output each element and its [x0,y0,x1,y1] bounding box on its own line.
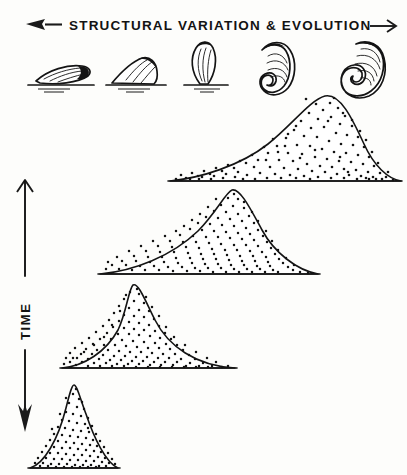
evolution-diagram: STRUCTURAL VARIATION & EVOLUTION [0,0,407,475]
title-row: STRUCTURAL VARIATION & EVOLUTION [26,18,396,33]
diagram-title: STRUCTURAL VARIATION & EVOLUTION [69,18,371,33]
distribution-curve-1-earliest [28,385,120,468]
distribution-curve-4-latest [168,96,402,182]
left-solid-arrow-icon [26,19,62,30]
specimen-1-recumbent-elongate-shell [28,66,94,92]
specimen-3-upright-leaf-shell [184,42,228,92]
distribution-curve-2 [60,285,237,369]
down-solid-arrowhead-icon [18,404,32,432]
diagram-canvas: STRUCTURAL VARIATION & EVOLUTION [0,0,407,475]
specimen-5-fully-coiled-shell [341,42,385,98]
distribution-curve-3 [98,190,320,274]
specimen-4-hooked-curving-shell [260,43,295,95]
right-arrow-icon [370,20,396,32]
time-axis: TIME [17,180,33,432]
specimen-2-low-inclined-shell [106,57,166,92]
time-axis-label: TIME [18,303,33,340]
